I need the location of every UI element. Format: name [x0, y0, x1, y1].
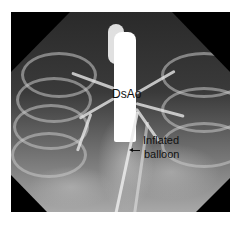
- inflated-balloon-label-line2: balloon: [144, 148, 179, 160]
- xray-frame: [11, 12, 230, 212]
- inflated-balloon-label-line1: Inflated: [143, 134, 179, 146]
- arrow-left-icon: [132, 150, 140, 151]
- xray-image: [11, 12, 230, 212]
- dsao-label: DsAo: [112, 88, 141, 100]
- rib-shadow: [11, 132, 87, 178]
- aortic-arch: [108, 24, 124, 64]
